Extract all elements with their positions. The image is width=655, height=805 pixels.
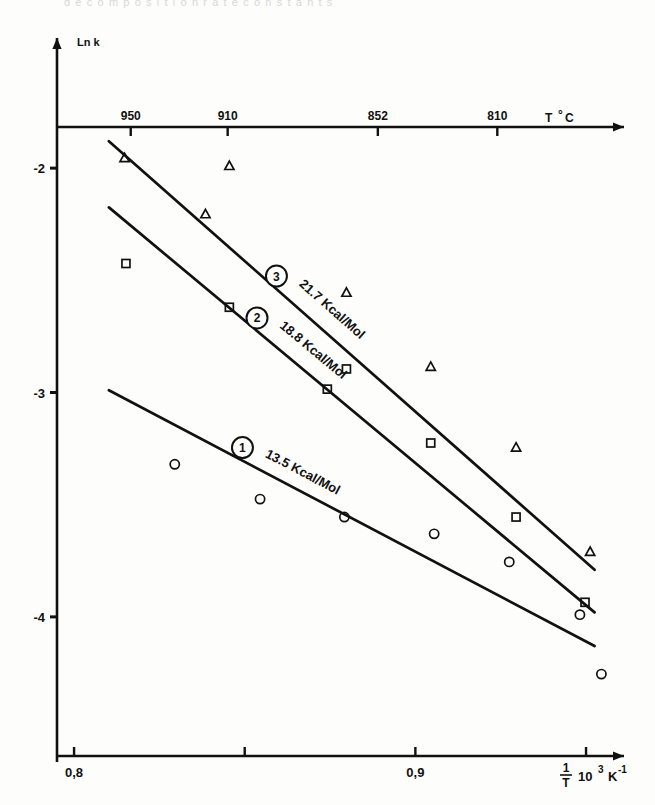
y-tick-label-1: -3 xyxy=(33,386,45,401)
y-tick-label-0: -2 xyxy=(33,161,45,176)
series-1 xyxy=(109,390,606,678)
y-axis xyxy=(52,38,61,762)
x-axis-label: 1T103K-1 xyxy=(560,761,627,790)
series-annotation-2: 18.8 Kcal/Mol xyxy=(277,318,350,382)
axes-layer: Ln k-2-3-40,80,91T103K-1950910852810T°C xyxy=(33,36,627,790)
data-point-1-5 xyxy=(575,610,584,619)
x-axis-label-numerator: 1 xyxy=(563,761,570,775)
top-axis-head xyxy=(613,122,624,131)
top-tick-label-3: 810 xyxy=(487,109,507,123)
fit-line-1 xyxy=(109,390,595,646)
series-2 xyxy=(109,207,595,612)
x-axis-label-unit-exponent: -1 xyxy=(618,764,627,775)
series-badge-1: 1 xyxy=(239,441,246,455)
top-tick-label-0: 950 xyxy=(121,109,141,123)
top-axis-label-t: T xyxy=(545,111,553,125)
top-axis-label-c: C xyxy=(565,111,574,125)
series-annotation-1: 13.5 Kcal/Mol xyxy=(263,446,343,498)
x-axis-label-denominator: T xyxy=(562,776,570,790)
data-point-1-3 xyxy=(430,529,439,538)
series-badge-2: 2 xyxy=(254,311,261,325)
series-annotation-3: 21.7 Kcal/Mol xyxy=(296,276,368,342)
data-point-2-0 xyxy=(122,259,130,267)
series-layer xyxy=(109,141,606,678)
fit-line-2 xyxy=(109,207,595,612)
data-point-3-3 xyxy=(342,288,351,296)
data-point-1-0 xyxy=(170,460,179,469)
top-axis-label: T°C xyxy=(545,108,574,125)
y-axis-head xyxy=(52,38,61,49)
top-tick-label-2: 852 xyxy=(368,109,388,123)
labels-layer: 321.7 Kcal/Mol218.8 Kcal/Mol113.5 Kcal/M… xyxy=(232,266,368,498)
arrhenius-figure: d e c o m p o s i t i o n r a t e c o n … xyxy=(0,0,655,805)
series-3 xyxy=(109,141,595,570)
data-point-1-4 xyxy=(505,557,514,566)
x-axis-label-unit: K xyxy=(608,769,618,784)
data-point-3-0 xyxy=(120,153,129,161)
data-point-3-2 xyxy=(201,209,210,217)
top-tick-label-1: 910 xyxy=(218,109,238,123)
plot-canvas: Ln k-2-3-40,80,91T103K-1950910852810T°C … xyxy=(0,0,655,805)
y-tick-label-2: -4 xyxy=(33,610,45,625)
data-point-2-4 xyxy=(427,439,435,447)
x-tick-label-2: 0,9 xyxy=(406,765,424,780)
data-point-1-6 xyxy=(597,670,606,679)
data-point-1-1 xyxy=(255,494,264,503)
data-point-3-6 xyxy=(586,547,595,555)
y-axis-label: Ln k xyxy=(77,36,100,48)
data-point-3-4 xyxy=(426,362,435,370)
x-axis-head xyxy=(613,751,624,760)
x-tick-label-0: 0,8 xyxy=(65,765,83,780)
x-axis-label-mantissa: 10 xyxy=(578,769,592,784)
top-axis xyxy=(56,122,624,131)
data-point-2-5 xyxy=(512,513,520,521)
x-axis xyxy=(56,751,624,760)
series-label-1: 113.5 Kcal/Mol xyxy=(232,437,343,498)
data-point-3-5 xyxy=(511,443,520,451)
series-badge-3: 3 xyxy=(273,270,280,284)
data-points-1 xyxy=(170,460,606,679)
fit-line-3 xyxy=(109,141,595,570)
data-point-3-1 xyxy=(225,161,234,169)
x-axis-label-exponent: 3 xyxy=(598,764,604,775)
top-axis-label-degree: ° xyxy=(558,108,563,122)
